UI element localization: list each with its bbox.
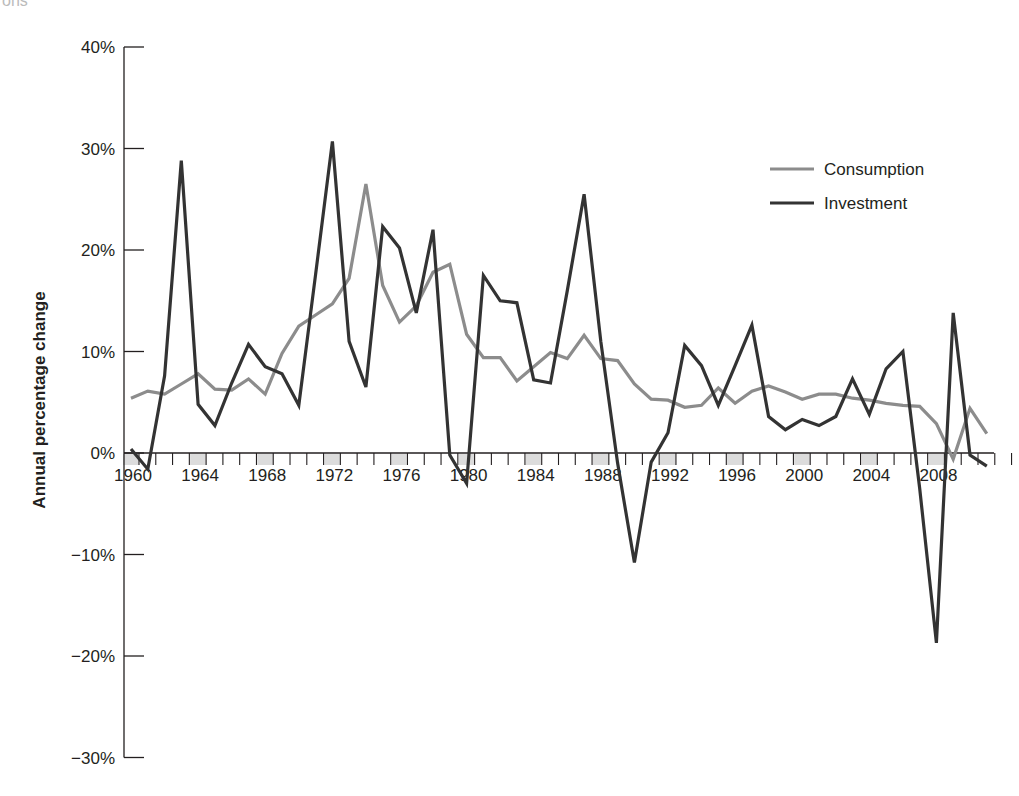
x-tick-label: 2008	[920, 466, 958, 485]
shade-box	[861, 454, 877, 465]
y-tick-label: 30%	[81, 140, 115, 159]
y-tick-label: −30%	[71, 749, 115, 768]
line-chart: 40%30%20%10%0%−10%−20%−30% 1960196419681…	[0, 0, 1019, 796]
shade-box	[190, 454, 206, 465]
series-investment-line	[131, 141, 987, 642]
y-tick-label: 20%	[81, 241, 115, 260]
x-tick-label: 1984	[517, 466, 555, 485]
legend: ConsumptionInvestment	[770, 160, 924, 213]
x-tick-label: 1976	[383, 466, 421, 485]
shade-box	[459, 454, 475, 465]
legend-label-investment: Investment	[824, 194, 907, 213]
y-tick-label: 0%	[90, 444, 115, 463]
y-tick-label: −20%	[71, 647, 115, 666]
y-axis-ticks: 40%30%20%10%0%−10%−20%−30%	[71, 38, 144, 768]
shade-box	[324, 454, 340, 465]
x-tick-label: 1968	[248, 466, 286, 485]
shade-box	[727, 454, 743, 465]
x-tick-label: 1992	[651, 466, 689, 485]
shade-box	[391, 454, 407, 465]
shade-box	[257, 454, 273, 465]
legend-label-consumption: Consumption	[824, 160, 924, 179]
data-lines	[131, 141, 987, 642]
y-tick-label: 10%	[81, 343, 115, 362]
x-tick-label: 1964	[181, 466, 219, 485]
x-tick-label: 1996	[718, 466, 756, 485]
year-shading-boxes	[123, 454, 944, 465]
y-tick-label: 40%	[81, 38, 115, 57]
shade-box	[660, 454, 676, 465]
y-tick-label: −10%	[71, 546, 115, 565]
shade-box	[794, 454, 810, 465]
x-tick-label: 1988	[584, 466, 622, 485]
series-consumption-line	[131, 184, 987, 459]
shade-box	[928, 454, 944, 465]
x-tick-label: 2004	[852, 466, 890, 485]
shade-box	[526, 454, 542, 465]
x-tick-label: 2000	[785, 466, 823, 485]
x-tick-label: 1972	[315, 466, 353, 485]
shade-box	[593, 454, 609, 465]
x-axis-ticks: 1960196419681972197619801984198819921996…	[114, 453, 1011, 485]
